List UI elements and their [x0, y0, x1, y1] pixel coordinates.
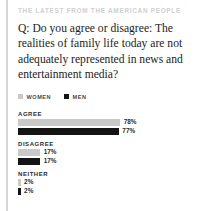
bar-row: 77%	[18, 128, 198, 135]
legend-item-men[interactable]: MEN	[64, 94, 86, 100]
men-swatch-icon	[64, 94, 69, 99]
bar-disagree-men	[18, 158, 40, 165]
bar-value-neither-men: 2%	[24, 188, 33, 194]
bar-row: 2%	[18, 188, 198, 195]
bar-row: 17%	[18, 149, 198, 156]
card-content: THE LATEST FROM THE AMERICAN PEOPLE Q: D…	[18, 0, 198, 195]
bar-group-disagree: DISAGREE 17% 17%	[18, 141, 198, 165]
card-kicker: THE LATEST FROM THE AMERICAN PEOPLE	[18, 7, 198, 14]
bar-neither-men	[18, 188, 21, 195]
bar-value-agree-men: 77%	[122, 128, 135, 134]
legend-label-women: WOMEN	[27, 94, 52, 100]
bar-value-neither-women: 2%	[24, 179, 33, 185]
bar-disagree-women	[18, 149, 40, 156]
bar-group-neither: NEITHER 2% 2%	[18, 171, 198, 195]
legend-label-men: MEN	[73, 94, 87, 100]
bar-group-label-disagree: DISAGREE	[18, 141, 198, 147]
left-accent-rule	[6, 0, 8, 211]
bar-neither-women	[18, 179, 21, 186]
bar-group-agree: AGREE 78% 77%	[18, 111, 198, 135]
bar-value-disagree-women: 17%	[44, 149, 57, 155]
bar-group-label-agree: AGREE	[18, 111, 198, 117]
bar-value-disagree-men: 17%	[44, 158, 57, 164]
poll-result-card: THE LATEST FROM THE AMERICAN PEOPLE Q: D…	[0, 0, 198, 211]
bar-chart: AGREE 78% 77% DISAGREE 17%	[18, 111, 198, 195]
women-swatch-icon	[18, 94, 23, 99]
bar-row: 17%	[18, 158, 198, 165]
bar-agree-men	[18, 128, 119, 135]
bar-row: 78%	[18, 119, 198, 126]
chart-legend: WOMEN MEN	[18, 94, 198, 100]
bar-value-agree-women: 78%	[124, 119, 137, 125]
bar-agree-women	[18, 119, 120, 126]
bar-row: 2%	[18, 179, 198, 186]
legend-item-women[interactable]: WOMEN	[18, 94, 51, 100]
poll-question: Q: Do you agree or disagree: The realiti…	[18, 21, 190, 83]
bar-group-label-neither: NEITHER	[18, 171, 198, 177]
